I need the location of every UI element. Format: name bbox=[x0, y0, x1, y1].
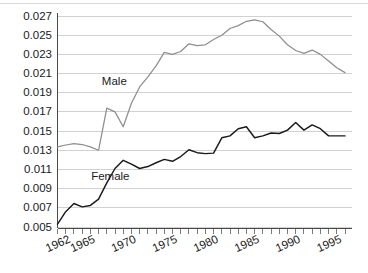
y-axis-tick-labels: 0.0270.0250.0230.0210.0190.0170.0150.013… bbox=[23, 10, 52, 233]
y-tick-label-0.023: 0.023 bbox=[23, 48, 52, 60]
gridlines-group bbox=[58, 16, 353, 227]
series-paths-group bbox=[58, 20, 346, 224]
chart-container: 0.0270.0250.0230.0210.0190.0170.0150.013… bbox=[0, 0, 368, 273]
x-axis-tickmarks bbox=[58, 229, 346, 234]
y-tick-label-0.007: 0.007 bbox=[23, 201, 52, 213]
y-tick-label-0.013: 0.013 bbox=[23, 144, 52, 156]
y-tick-label-0.021: 0.021 bbox=[23, 67, 52, 79]
x-tick-label-1980: 1980 bbox=[192, 233, 220, 254]
x-tick-label-1975: 1975 bbox=[151, 233, 179, 254]
y-tick-label-0.005: 0.005 bbox=[23, 221, 52, 233]
x-tick-label-1985: 1985 bbox=[233, 233, 261, 254]
x-tick-label-1995: 1995 bbox=[315, 233, 343, 254]
x-axis-tick-labels: 19621965197019751980198519901995 bbox=[44, 233, 343, 254]
x-tick-label-1965: 1965 bbox=[68, 233, 96, 254]
x-tick-label-1970: 1970 bbox=[109, 233, 137, 254]
series-label-male: Male bbox=[102, 75, 127, 87]
y-tick-label-0.015: 0.015 bbox=[23, 125, 52, 137]
y-tick-label-0.011: 0.011 bbox=[24, 163, 52, 175]
series-inline-labels: MaleFemale bbox=[91, 75, 129, 182]
y-tick-label-0.009: 0.009 bbox=[23, 182, 52, 194]
y-tick-label-0.019: 0.019 bbox=[23, 86, 52, 98]
y-tick-label-0.017: 0.017 bbox=[23, 105, 52, 117]
y-tick-label-0.025: 0.025 bbox=[23, 29, 52, 41]
x-tick-label-1990: 1990 bbox=[274, 233, 302, 254]
y-tick-label-0.027: 0.027 bbox=[23, 10, 52, 22]
line-chart-svg: 0.0270.0250.0230.0210.0190.0170.0150.013… bbox=[0, 0, 368, 273]
series-label-female: Female bbox=[91, 170, 129, 182]
